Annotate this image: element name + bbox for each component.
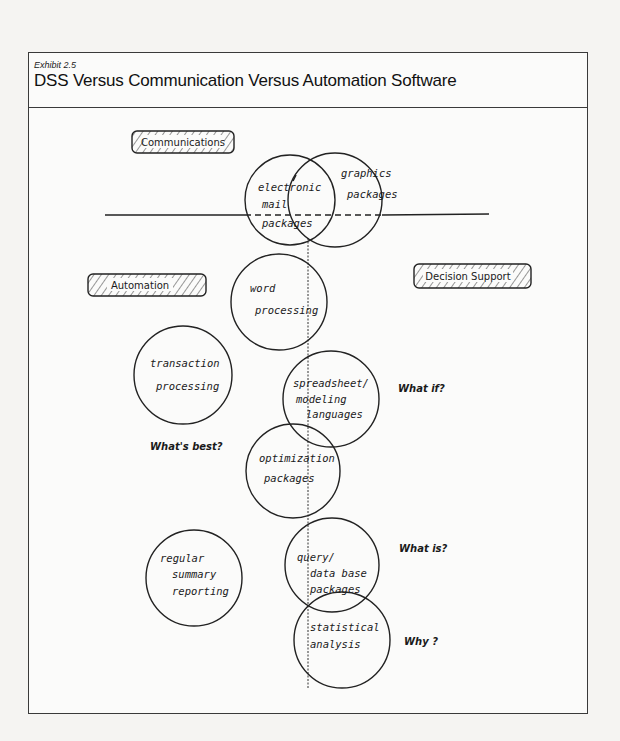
- question-why: Why ?: [404, 636, 438, 647]
- circle-statistical-analysis: statistical analysis: [294, 592, 390, 688]
- question-what-is: What is?: [399, 543, 448, 554]
- circle-electronic-mail: electronic mail packages: [245, 155, 335, 245]
- svg-text:summary: summary: [172, 568, 217, 580]
- svg-text:regular: regular: [160, 552, 205, 564]
- communication-boundary-line: [105, 214, 489, 215]
- svg-text:query/: query/: [297, 551, 335, 563]
- svg-text:Communications: Communications: [141, 137, 225, 148]
- svg-text:optimization: optimization: [259, 452, 335, 464]
- svg-text:Decision Support: Decision Support: [425, 271, 510, 282]
- category-communications: Communications: [132, 131, 234, 153]
- circle-transaction-processing: transaction processing: [134, 326, 232, 424]
- svg-text:packages: packages: [346, 188, 398, 200]
- svg-text:packages: packages: [263, 472, 315, 484]
- svg-text:modeling: modeling: [295, 393, 347, 405]
- svg-text:data base: data base: [310, 567, 367, 579]
- svg-text:graphics: graphics: [341, 167, 392, 179]
- svg-text:transaction: transaction: [150, 357, 220, 369]
- svg-text:Automation: Automation: [111, 280, 169, 291]
- svg-text:languages: languages: [306, 408, 363, 420]
- svg-text:analysis: analysis: [310, 638, 361, 650]
- circle-spreadsheet: spreadsheet/ modeling languages: [283, 351, 379, 447]
- svg-text:statistical: statistical: [310, 621, 380, 633]
- svg-text:processing: processing: [254, 304, 318, 316]
- circle-word-processing: word processing: [231, 254, 327, 350]
- category-decision-support: Decision Support: [414, 264, 531, 288]
- diagram-canvas: Communications Automation Decision Suppo…: [0, 0, 620, 741]
- svg-text:reporting: reporting: [172, 585, 229, 597]
- circle-regular-reporting: regular summary reporting: [146, 530, 242, 626]
- svg-text:mail: mail: [261, 198, 287, 210]
- circle-optimization: optimization packages: [246, 424, 340, 518]
- svg-text:packages: packages: [261, 217, 313, 229]
- question-what-if: What if?: [398, 383, 445, 394]
- svg-text:spreadsheet/: spreadsheet/: [293, 377, 369, 389]
- circle-graphics: graphics packages: [288, 153, 398, 247]
- svg-text:processing: processing: [155, 380, 219, 392]
- svg-text:word: word: [250, 282, 276, 294]
- category-automation: Automation: [88, 274, 206, 296]
- question-whats-best: What's best?: [150, 441, 223, 452]
